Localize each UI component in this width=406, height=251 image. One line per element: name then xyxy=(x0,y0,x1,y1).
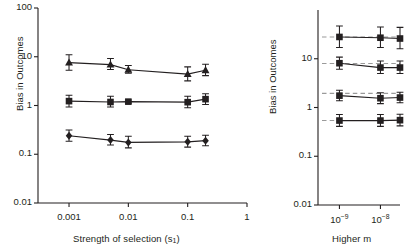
data-point-marker xyxy=(336,117,343,124)
x-axis-title-right: Higher m xyxy=(332,233,371,244)
data-point-marker xyxy=(377,117,384,124)
data-point-marker xyxy=(377,64,384,71)
data-point-marker xyxy=(66,132,73,140)
x-tick-label: 0.1 xyxy=(162,211,214,222)
y-tick-label: 1 xyxy=(0,99,32,110)
data-point-marker xyxy=(184,138,191,146)
x-axis-title-left: Strength of selection (s1) xyxy=(73,233,180,244)
y-tick-label: 100 xyxy=(0,1,32,12)
chart-panel-right: Bias in Outcomes Higher m 0.010.111010−9… xyxy=(250,0,394,251)
data-point-marker xyxy=(202,96,209,103)
x-tick-label: 10−8 xyxy=(354,213,406,225)
data-point-marker xyxy=(336,60,343,67)
x-axis-title-left-main: Strength of selection (s xyxy=(73,233,173,244)
data-point-marker xyxy=(377,34,384,41)
y-tick-label: 0.01 xyxy=(272,198,312,209)
y-tick-label: 0.1 xyxy=(272,149,312,160)
x-tick-label: 0.001 xyxy=(43,211,95,222)
data-point-marker xyxy=(397,94,404,101)
data-point-marker xyxy=(107,136,114,144)
data-point-marker xyxy=(66,98,73,105)
data-point-marker xyxy=(65,58,73,65)
data-point-marker xyxy=(377,95,384,102)
data-point-marker xyxy=(107,99,114,106)
data-point-marker xyxy=(184,99,191,106)
data-point-marker xyxy=(397,35,404,42)
data-point-marker xyxy=(202,137,209,145)
chart-panel-left: Bias in Outcomes Strength of selection (… xyxy=(0,0,250,251)
y-tick-label: 1 xyxy=(272,101,312,112)
data-point-marker xyxy=(202,66,210,73)
y-tick-label: 10 xyxy=(0,50,32,61)
y-tick-label: 10 xyxy=(272,52,312,63)
x-tick-label: 0.01 xyxy=(102,211,154,222)
y-tick-label: 0.01 xyxy=(0,196,32,207)
x-axis-title-left-tail: ) xyxy=(177,233,180,244)
data-point-marker xyxy=(125,98,132,105)
data-point-marker xyxy=(336,92,343,99)
data-point-marker xyxy=(397,64,404,71)
y-tick-label: 0.1 xyxy=(0,147,32,158)
data-point-marker xyxy=(336,34,343,41)
data-point-marker xyxy=(125,138,132,146)
data-point-marker xyxy=(397,117,404,124)
